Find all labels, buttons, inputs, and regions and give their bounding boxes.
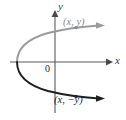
upper-branch-curve — [17, 26, 99, 63]
arrow-right-icon — [96, 22, 105, 29]
x-axis-label: x — [115, 55, 120, 66]
upper-branch-group — [17, 22, 105, 62]
lower-point-label: (x, −y) — [54, 95, 83, 106]
parabola-figure: y x 0 (x, y) (x, −y) — [0, 0, 126, 120]
origin-label: 0 — [45, 64, 50, 74]
y-axis-label: y — [58, 1, 63, 12]
upper-point-label: (x, y) — [63, 17, 85, 28]
arrow-right-icon — [96, 95, 105, 102]
arrow-right-icon — [106, 59, 113, 66]
